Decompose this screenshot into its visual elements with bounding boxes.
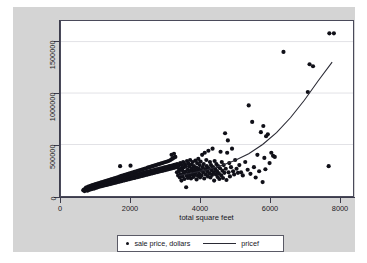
x-axis-tick-label: 2000: [122, 204, 138, 213]
data-point: [232, 172, 236, 176]
data-point: [230, 147, 234, 151]
data-point: [332, 31, 336, 35]
x-axis-title: total square feet: [13, 213, 367, 222]
data-point: [263, 167, 267, 171]
y-axis-tick-label: 1500000: [49, 40, 58, 69]
x-axis-tick-label: 6000: [262, 204, 278, 213]
data-point: [254, 175, 258, 179]
data-point: [252, 165, 256, 169]
x-axis-tick: [270, 198, 271, 203]
data-point: [246, 168, 250, 172]
data-point: [226, 170, 230, 174]
data-point: [228, 174, 232, 178]
data-point: [206, 149, 210, 153]
data-point: [259, 130, 263, 134]
legend-entry-sale-price: sale price, dollars: [126, 239, 190, 248]
data-point: [261, 180, 265, 184]
data-point: [225, 151, 229, 155]
data-point: [281, 50, 285, 54]
data-point: [267, 161, 271, 165]
data-point: [194, 177, 198, 181]
data-point: [223, 131, 227, 135]
fit-line: [179, 62, 332, 175]
data-point: [218, 150, 222, 154]
data-point: [229, 165, 233, 169]
chart-legend: sale price, dollars pricef: [117, 235, 284, 252]
data-point: [248, 172, 252, 176]
y-axis-tick-label: 500000: [49, 144, 58, 169]
legend-label-pricef: pricef: [241, 239, 259, 248]
data-point: [172, 152, 176, 156]
x-axis-title-text: total square feet: [179, 213, 233, 222]
x-axis-tick: [130, 198, 131, 203]
x-axis-tick: [60, 198, 61, 203]
y-axis-tick-label: 0: [49, 197, 58, 201]
data-point: [184, 185, 188, 189]
data-point: [221, 176, 225, 180]
x-axis-tick: [340, 198, 341, 203]
data-point: [255, 153, 259, 157]
data-point: [262, 156, 266, 160]
data-point: [266, 132, 270, 136]
data-point: [243, 160, 247, 164]
data-point: [128, 164, 132, 168]
data-point: [257, 169, 261, 173]
data-point: [210, 147, 214, 151]
y-axis-line: [59, 20, 60, 198]
data-point: [327, 31, 331, 35]
plot-canvas: [61, 21, 353, 196]
data-point: [247, 103, 251, 107]
data-point: [224, 167, 228, 171]
data-point: [311, 64, 315, 68]
legend-line-marker-icon: [203, 243, 236, 244]
data-point: [327, 164, 331, 168]
data-point: [307, 62, 311, 66]
data-point: [202, 176, 206, 180]
data-point: [234, 167, 238, 171]
plot-area: [60, 20, 354, 197]
data-point: [226, 138, 230, 142]
data-point: [212, 178, 216, 182]
scatter-plot-figure: 050000010000001500000 02000400060008000 …: [0, 0, 367, 263]
data-point: [224, 178, 228, 182]
data-point: [261, 124, 265, 128]
data-point: [273, 155, 277, 159]
graph-region: 050000010000001500000 02000400060008000 …: [13, 7, 355, 252]
data-point: [118, 164, 122, 168]
data-point: [217, 177, 221, 181]
x-axis-tick-label: 8000: [332, 204, 348, 213]
data-point: [250, 120, 254, 124]
x-axis-tick-label: 4000: [192, 204, 208, 213]
data-point: [204, 158, 208, 162]
data-point: [237, 163, 241, 167]
x-axis-line: [59, 197, 355, 198]
legend-label-sale-price: sale price, dollars: [134, 239, 190, 248]
data-point: [203, 151, 207, 155]
data-point: [222, 171, 226, 175]
data-point: [241, 173, 245, 177]
legend-dot-marker-icon: [126, 242, 129, 245]
x-axis-tick: [200, 198, 201, 203]
x-axis-tick-label: 0: [58, 204, 62, 213]
legend-entry-pricef: pricef: [203, 239, 259, 248]
y-axis-tick-label: 1000000: [49, 92, 58, 121]
